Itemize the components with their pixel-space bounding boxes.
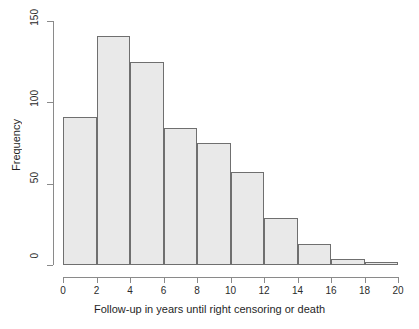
x-axis-tick	[331, 277, 332, 283]
histogram-bar	[164, 128, 198, 265]
histogram-bar	[264, 218, 298, 265]
histogram-bar	[97, 36, 131, 265]
y-axis-tick	[47, 102, 53, 103]
histogram-bar	[365, 262, 399, 265]
x-axis-tick	[365, 277, 366, 283]
x-axis-tick-label: 16	[316, 285, 346, 296]
y-axis-tick	[47, 21, 53, 22]
x-axis-tick	[264, 277, 265, 283]
x-axis-tick-label: 14	[283, 285, 313, 296]
histogram-bar	[63, 117, 97, 265]
x-axis-tick-label: 10	[216, 285, 246, 296]
y-axis-line	[53, 21, 54, 265]
histogram-bar	[197, 143, 231, 265]
x-axis-tick-label: 8	[182, 285, 212, 296]
plot-area	[63, 21, 398, 265]
x-axis-tick	[231, 277, 232, 283]
y-axis-tick	[47, 184, 53, 185]
x-axis-tick	[398, 277, 399, 283]
x-axis-tick-label: 0	[48, 285, 78, 296]
x-axis-tick	[298, 277, 299, 283]
x-axis-tick	[63, 277, 64, 283]
y-axis-title: Frequency	[10, 0, 22, 290]
x-axis-title: Follow-up in years until right censoring…	[0, 303, 419, 315]
x-axis-tick	[164, 277, 165, 283]
histogram-bar	[331, 259, 365, 266]
y-axis-tick-label: 100	[30, 90, 40, 107]
y-axis-tick-label: 150	[30, 9, 40, 26]
histogram-bar	[130, 62, 164, 265]
histogram-bar	[231, 172, 265, 265]
histogram-figure: Frequency 050100150 02468101214161820 Fo…	[0, 0, 419, 329]
x-axis-tick	[197, 277, 198, 283]
x-axis-tick	[130, 277, 131, 283]
x-axis-tick	[97, 277, 98, 283]
x-axis-tick-label: 20	[383, 285, 413, 296]
y-axis-tick	[47, 265, 53, 266]
x-axis-tick-label: 6	[149, 285, 179, 296]
x-axis-tick-label: 4	[115, 285, 145, 296]
y-axis-tick-label: 50	[30, 172, 40, 183]
histogram-bar	[298, 244, 332, 265]
x-axis-tick-label: 18	[350, 285, 380, 296]
x-axis-tick-label: 2	[82, 285, 112, 296]
y-axis-tick-label: 0	[30, 253, 40, 259]
x-axis-tick-label: 12	[249, 285, 279, 296]
